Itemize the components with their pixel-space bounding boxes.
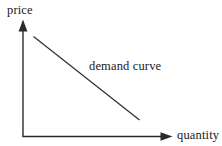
axes-and-curve-graphic [0,0,222,146]
y-axis-label: price [7,4,33,17]
economics-demand-curve-figure: price quantity demand curve [0,0,222,146]
x-axis-arrowhead-icon [161,132,173,141]
x-axis-label: quantity [177,129,219,142]
demand-curve-label: demand curve [89,60,161,73]
y-axis-arrowhead-icon [19,20,28,32]
demand-curve-line [34,37,140,121]
